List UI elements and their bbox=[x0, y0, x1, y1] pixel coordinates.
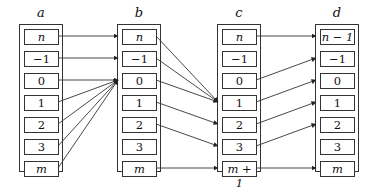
arrow-a3-b2 bbox=[58, 80, 118, 102]
arrow-a5-b2 bbox=[58, 80, 118, 146]
arrows-layer bbox=[0, 0, 375, 192]
arrow-a6-b2 bbox=[58, 80, 118, 168]
arrow-c3-d2 bbox=[256, 80, 316, 102]
arrow-c2-d1 bbox=[256, 58, 316, 80]
arrow-c5-d4 bbox=[256, 124, 316, 146]
arrow-b3-c4 bbox=[156, 102, 218, 124]
mapping-arrows bbox=[58, 36, 316, 168]
arrow-b4-c5 bbox=[156, 124, 218, 146]
arrow-c4-d3 bbox=[256, 102, 316, 124]
arrow-b2-c3 bbox=[156, 80, 218, 102]
arrow-b1-c3 bbox=[156, 58, 218, 102]
arrow-b0-c3 bbox=[156, 36, 218, 102]
arrow-a4-b2 bbox=[58, 80, 118, 124]
